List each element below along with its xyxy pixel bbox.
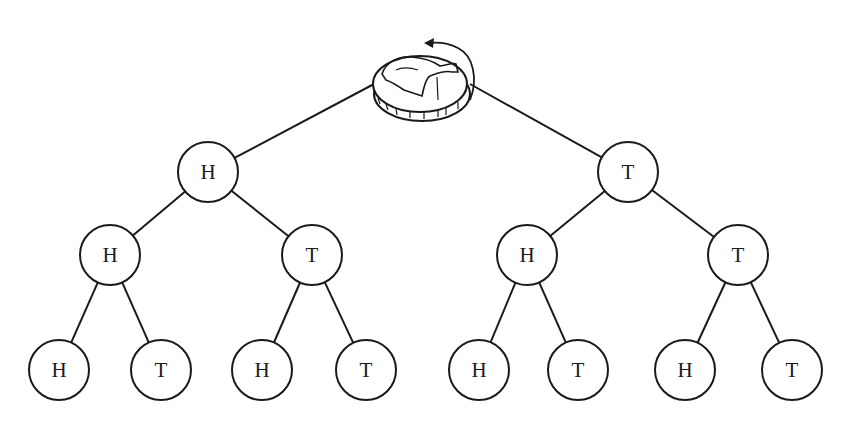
node-label: T bbox=[622, 160, 635, 184]
node-label: H bbox=[254, 358, 269, 382]
tree-node-heads: H bbox=[655, 340, 715, 400]
tree-node-tails: T bbox=[282, 225, 342, 285]
tree-edges bbox=[71, 84, 779, 343]
tree-node-heads: H bbox=[232, 340, 292, 400]
node-label: H bbox=[677, 358, 692, 382]
node-label: T bbox=[155, 358, 168, 382]
tree-node-heads: H bbox=[449, 340, 509, 400]
tree-edge bbox=[652, 190, 714, 237]
coin-toss-tree: HTHTHTHTHTHTHT bbox=[0, 0, 843, 423]
tree-edge bbox=[71, 282, 98, 342]
node-label: T bbox=[360, 358, 373, 382]
tree-edge bbox=[133, 191, 185, 235]
tree-edge bbox=[235, 84, 374, 158]
tree-nodes: HTHTHTHTHTHTHT bbox=[29, 142, 822, 400]
tree-edge bbox=[274, 283, 300, 343]
tree-node-tails: T bbox=[548, 340, 608, 400]
node-label: T bbox=[732, 243, 745, 267]
tree-edge bbox=[539, 282, 566, 342]
tree-node-heads: H bbox=[29, 340, 89, 400]
tree-node-heads: H bbox=[80, 225, 140, 285]
tree-node-tails: T bbox=[598, 142, 658, 202]
tree-edge bbox=[751, 282, 779, 343]
node-label: H bbox=[200, 160, 215, 184]
node-label: H bbox=[102, 243, 117, 267]
node-label: T bbox=[306, 243, 319, 267]
node-label: T bbox=[572, 358, 585, 382]
tree-node-tails: T bbox=[708, 225, 768, 285]
node-label: H bbox=[519, 243, 534, 267]
tree-node-heads: H bbox=[497, 225, 557, 285]
tree-edge bbox=[491, 283, 516, 343]
tree-edge bbox=[231, 191, 288, 237]
tree-node-tails: T bbox=[131, 340, 191, 400]
tree-edge bbox=[325, 282, 353, 343]
tree-node-tails: T bbox=[336, 340, 396, 400]
coin-flip-icon bbox=[373, 38, 474, 121]
tree-node-heads: H bbox=[178, 142, 238, 202]
tree-node-tails: T bbox=[762, 340, 822, 400]
tree-edge bbox=[698, 282, 726, 343]
node-label: T bbox=[786, 358, 799, 382]
node-label: H bbox=[471, 358, 486, 382]
tree-edge bbox=[470, 84, 602, 157]
tree-edge bbox=[122, 282, 149, 342]
node-label: H bbox=[51, 358, 66, 382]
tree-edge bbox=[550, 191, 605, 236]
